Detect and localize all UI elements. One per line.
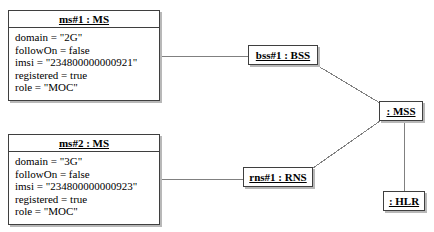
- object-attributes-ms1: domain = "2G" followOn = false imsi = "2…: [9, 28, 159, 97]
- object-node-mss[interactable]: : MSS: [379, 101, 423, 121]
- attribute-row: imsi = "234800000000923": [15, 180, 159, 193]
- object-box-ms2[interactable]: ms#2 : MS domain = "3G" followOn = false…: [8, 134, 160, 225]
- attribute-row: registered = true: [15, 69, 159, 82]
- object-title-ms1: ms#1 : MS: [9, 11, 159, 28]
- object-title-ms2: ms#2 : MS: [9, 135, 159, 152]
- attribute-row: followOn = false: [15, 168, 159, 181]
- object-node-hlr[interactable]: : HLR: [383, 191, 425, 211]
- object-box-ms1[interactable]: ms#1 : MS domain = "2G" followOn = false…: [8, 10, 160, 101]
- attribute-row: registered = true: [15, 193, 159, 206]
- object-node-bss[interactable]: bss#1 : BSS: [248, 45, 318, 65]
- object-title-text-ms2: ms#2 : MS: [59, 137, 109, 149]
- attribute-row: domain = "2G": [15, 31, 159, 44]
- link-bss-mss: [318, 66, 380, 103]
- object-node-label-hlr: : HLR: [389, 195, 419, 207]
- object-node-label-mss: : MSS: [386, 105, 415, 117]
- attribute-row: domain = "3G": [15, 155, 159, 168]
- object-attributes-ms2: domain = "3G" followOn = false imsi = "2…: [9, 152, 159, 221]
- attribute-row: role = "MOC": [15, 81, 159, 94]
- object-node-rns[interactable]: rns#1 : RNS: [243, 167, 313, 187]
- object-node-label-bss: bss#1 : BSS: [256, 49, 310, 61]
- object-node-label-rns: rns#1 : RNS: [249, 171, 306, 183]
- attribute-row: followOn = false: [15, 44, 159, 57]
- link-rns-mss: [313, 121, 380, 168]
- attribute-row: role = "MOC": [15, 205, 159, 218]
- object-title-text-ms1: ms#1 : MS: [59, 13, 109, 25]
- attribute-row: imsi = "234800000000921": [15, 56, 159, 69]
- object-diagram-canvas: ms#1 : MS domain = "2G" followOn = false…: [0, 0, 434, 232]
